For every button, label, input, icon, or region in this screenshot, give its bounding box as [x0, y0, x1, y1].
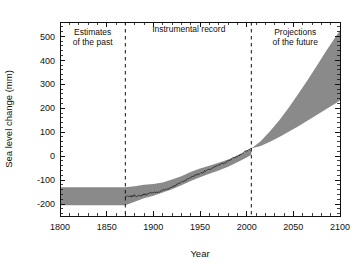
x-tick-label: 1800 [50, 222, 70, 232]
x-tick-label: 2100 [330, 222, 350, 232]
chart-canvas: 1800185019001950200020502100 -200-100010… [0, 0, 363, 264]
annotation-projections-of-the-future: Projectionsof the future [273, 27, 319, 47]
annotation-instrumental-record: Instrumental record [152, 24, 225, 34]
y-tick-label: 500 [40, 32, 55, 42]
y-tick-label: 0 [50, 151, 55, 161]
x-tick-label: 1950 [190, 222, 210, 232]
y-tick-label: -200 [37, 199, 55, 209]
x-axis-title: Year [190, 248, 209, 259]
x-axis-tick-labels: 1800185019001950200020502100 [50, 222, 350, 232]
y-tick-label: 400 [40, 56, 55, 66]
x-tick-label: 2000 [237, 222, 257, 232]
x-tick-label: 1900 [143, 222, 163, 232]
y-tick-label: -100 [37, 175, 55, 185]
sea-level-chart-figure: 1800185019001950200020502100 -200-100010… [0, 0, 363, 264]
y-tick-label: 200 [40, 103, 55, 113]
y-tick-label: 100 [40, 127, 55, 137]
y-axis-tick-labels: -200-1000100200300400500 [37, 32, 55, 210]
y-axis-title: Sea level change (mm) [3, 70, 14, 168]
y-tick-label: 300 [40, 79, 55, 89]
annotation-estimates-of-the-past: Estimatesof the past [73, 27, 113, 47]
x-tick-label: 2050 [283, 222, 303, 232]
x-tick-label: 1850 [97, 222, 117, 232]
